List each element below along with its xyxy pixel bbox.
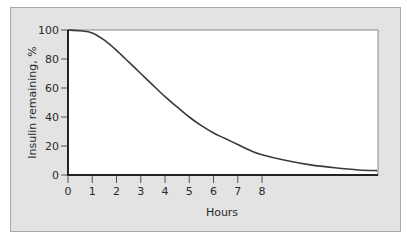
x-axis-ticks: 012345678	[65, 175, 266, 198]
x-tick-label: 7	[234, 185, 241, 198]
x-tick-label: 3	[137, 185, 144, 198]
insulin-chart: 020406080100 012345678 Hours Insulin rem…	[0, 0, 407, 243]
x-axis-title: Hours	[206, 206, 238, 219]
x-tick-label: 0	[65, 185, 72, 198]
y-tick-label: 40	[45, 111, 59, 124]
y-tick-label: 80	[45, 53, 59, 66]
y-axis-ticks: 020406080100	[38, 24, 68, 182]
plot-area	[68, 30, 378, 175]
y-tick-label: 100	[38, 24, 59, 37]
x-tick-label: 8	[259, 185, 266, 198]
y-tick-label: 0	[52, 169, 59, 182]
y-tick-label: 20	[45, 140, 59, 153]
x-tick-label: 2	[113, 185, 120, 198]
x-tick-label: 1	[89, 185, 96, 198]
x-tick-label: 6	[210, 185, 217, 198]
y-tick-label: 60	[45, 82, 59, 95]
x-tick-label: 4	[162, 185, 169, 198]
x-tick-label: 5	[186, 185, 193, 198]
y-axis-title: Insulin remaining, %	[26, 46, 39, 159]
